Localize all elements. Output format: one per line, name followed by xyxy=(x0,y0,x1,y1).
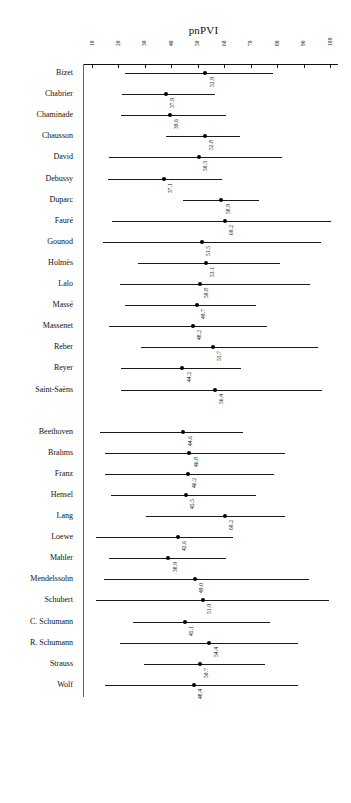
row-label-r-schumann: R. Schumann xyxy=(0,639,73,647)
x-axis-tick-label: 90 xyxy=(300,40,306,46)
point-estimate-label: 49.7 xyxy=(200,309,206,319)
point-estimate-label: 45.5 xyxy=(189,499,195,509)
point-estimate-label: 44.6 xyxy=(187,436,193,446)
point-estimate-label: 52.9 xyxy=(209,77,215,87)
confidence-interval-line xyxy=(105,685,298,686)
confidence-interval-line xyxy=(144,664,266,665)
confidence-interval-line xyxy=(96,537,234,538)
row-label-brahms: Brahms xyxy=(0,449,73,457)
row-label-chaminade: Chaminade xyxy=(0,111,73,119)
point-estimate-label: 51.5 xyxy=(205,246,211,256)
confidence-interval-line xyxy=(133,622,271,623)
confidence-interval-line xyxy=(96,600,329,601)
point-estimate-dot xyxy=(181,430,185,434)
x-axis-tick xyxy=(224,64,225,68)
x-axis-line xyxy=(83,64,338,65)
x-axis-tick-label: 30 xyxy=(141,40,147,46)
point-estimate-dot xyxy=(198,282,202,286)
row-label-schubert: Schubert xyxy=(0,596,73,604)
point-estimate-label: 49.0 xyxy=(198,583,204,593)
point-estimate-dot xyxy=(184,493,188,497)
row-label-holm-s: Holmès xyxy=(0,259,73,267)
point-estimate-label: 37.9 xyxy=(169,98,175,108)
row-label-mahler: Mahler xyxy=(0,554,73,562)
x-axis-tick-label: 70 xyxy=(247,40,253,46)
point-estimate-label: 50.3 xyxy=(202,161,208,171)
confidence-interval-line xyxy=(141,347,318,348)
confidence-interval-line xyxy=(103,242,321,243)
point-estimate-label: 39.6 xyxy=(173,119,179,129)
x-axis-tick-label: 10 xyxy=(89,40,95,46)
y-axis-spine xyxy=(83,64,84,697)
x-axis-tick-label: 80 xyxy=(274,40,280,46)
point-estimate-dot xyxy=(213,388,217,392)
point-estimate-label: 54.4 xyxy=(213,647,219,657)
point-estimate-dot xyxy=(223,219,227,223)
x-axis-tick-label: 20 xyxy=(115,40,121,46)
point-estimate-dot xyxy=(200,240,204,244)
confidence-interval-line xyxy=(105,474,274,475)
row-label-hensel: Hensel xyxy=(0,491,73,499)
point-estimate-label: 50.8 xyxy=(203,288,209,298)
row-label-debussy: Debussy xyxy=(0,175,73,183)
x-axis-tick xyxy=(304,64,305,68)
confidence-interval-line xyxy=(104,579,309,580)
row-label-loewe: Loewe xyxy=(0,533,73,541)
confidence-interval-line xyxy=(146,516,285,517)
x-axis-tick xyxy=(118,64,119,68)
point-estimate-dot xyxy=(186,472,190,476)
x-axis-tick xyxy=(330,64,331,68)
point-estimate-label: 51.9 xyxy=(206,604,212,614)
confidence-interval-line xyxy=(121,115,225,116)
point-estimate-dot xyxy=(162,177,166,181)
row-label-faur: Fauré xyxy=(0,217,73,225)
row-label-reber: Reber xyxy=(0,343,73,351)
point-estimate-label: 42.6 xyxy=(181,541,187,551)
x-axis-tick xyxy=(198,64,199,68)
point-estimate-dot xyxy=(176,535,180,539)
confidence-interval-line xyxy=(105,453,285,454)
x-axis-tick-label: 40 xyxy=(168,40,174,46)
point-estimate-dot xyxy=(168,113,172,117)
x-axis-tick xyxy=(171,64,172,68)
point-estimate-label: 45.1 xyxy=(188,626,194,636)
point-estimate-dot xyxy=(207,641,211,645)
forest-plot: pnPVI 102030405060708090100 Bizet52.9Cha… xyxy=(0,0,351,803)
confidence-interval-line xyxy=(125,305,256,306)
x-axis-tick xyxy=(277,64,278,68)
point-estimate-label: 44.2 xyxy=(186,372,192,382)
row-label-beethoven: Beethoven xyxy=(0,428,73,436)
point-estimate-dot xyxy=(191,324,195,328)
confidence-interval-line xyxy=(138,263,279,264)
point-estimate-label: 60.2 xyxy=(228,225,234,235)
point-estimate-label: 46.2 xyxy=(191,478,197,488)
point-estimate-dot xyxy=(192,683,196,687)
point-estimate-label: 56.4 xyxy=(218,394,224,404)
row-label-lalo: Lalo xyxy=(0,280,73,288)
point-estimate-dot xyxy=(203,134,207,138)
point-estimate-dot xyxy=(166,556,170,560)
point-estimate-label: 48.2 xyxy=(196,330,202,340)
row-label-duparc: Duparc xyxy=(0,196,73,204)
point-estimate-dot xyxy=(197,155,201,159)
x-axis-tick xyxy=(251,64,252,68)
point-estimate-label: 52.8 xyxy=(208,140,214,150)
confidence-interval-line xyxy=(125,73,273,74)
point-estimate-dot xyxy=(223,514,227,518)
point-estimate-dot xyxy=(180,366,184,370)
x-axis-tick xyxy=(145,64,146,68)
point-estimate-dot xyxy=(183,620,187,624)
point-estimate-dot xyxy=(203,71,207,75)
point-estimate-label: 55.7 xyxy=(216,351,222,361)
point-estimate-label: 60.2 xyxy=(228,520,234,530)
plot-area: 102030405060708090100 Bizet52.9Chabrier3… xyxy=(0,0,351,803)
x-axis-tick-label: 50 xyxy=(194,40,200,46)
row-label-david: David xyxy=(0,153,73,161)
point-estimate-dot xyxy=(198,662,202,666)
confidence-interval-line xyxy=(120,284,310,285)
point-estimate-dot xyxy=(201,598,205,602)
row-label-lang: Lang xyxy=(0,512,73,520)
confidence-interval-line xyxy=(109,326,266,327)
row-label-bizet: Bizet xyxy=(0,69,73,77)
row-label-wolf: Wolf xyxy=(0,681,73,689)
